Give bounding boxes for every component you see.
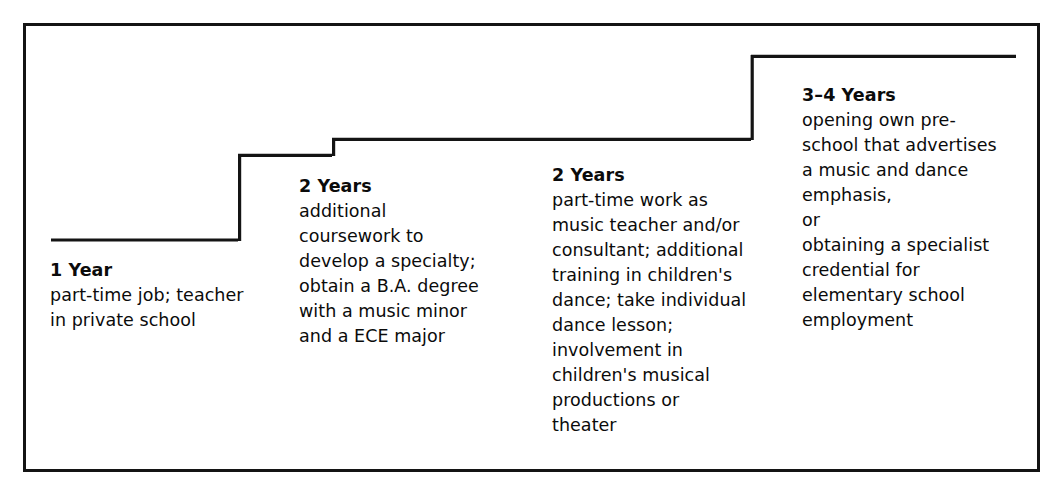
step-4-description-after-or: obtaining a specialist credential for el… [802, 233, 1032, 333]
step-2-duration: 2 Years [299, 174, 539, 199]
step-block-4: 3–4 Years opening own pre- school that a… [802, 83, 1032, 333]
diagram-canvas: 1 Year part-time job; teacher in private… [0, 0, 1060, 497]
step-3-duration: 2 Years [552, 163, 784, 188]
step-block-1: 1 Year part-time job; teacher in private… [50, 258, 300, 333]
step-2-description: additional coursework to develop a speci… [299, 199, 539, 349]
step-1-duration: 1 Year [50, 258, 300, 283]
step-4-or-separator: or [802, 208, 1032, 233]
step-block-2: 2 Years additional coursework to develop… [299, 174, 539, 349]
step-4-description-before-or: opening own pre- school that advertises … [802, 108, 1032, 208]
step-4-duration: 3–4 Years [802, 83, 1032, 108]
step-block-3: 2 Years part-time work as music teacher … [552, 163, 784, 438]
step-3-description: part-time work as music teacher and/or c… [552, 188, 784, 438]
step-1-description: part-time job; teacher in private school [50, 283, 300, 333]
